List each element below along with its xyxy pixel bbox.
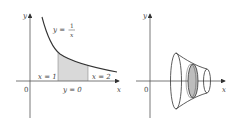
shaded-disk (188, 64, 198, 98)
left-figure (16, 14, 119, 118)
curve-label-numerator: 1 (70, 22, 74, 29)
left-origin-label: 0 (24, 86, 28, 94)
bound-label-x1: x = 1 (38, 73, 57, 81)
left-x-axis-label: x (117, 86, 121, 94)
left-y-axis-label: y (22, 12, 28, 20)
right-x-axis-label: x (222, 86, 226, 94)
curve-label-denominator: x (70, 31, 74, 38)
bottom-bound-label: y = 0 (62, 86, 82, 94)
right-figure (136, 14, 225, 118)
curve-label-lhs: y = (52, 26, 65, 34)
right-y-axis-label: y (142, 12, 148, 20)
shaded-region (58, 53, 88, 81)
diagram-canvas: y x 0 y = 1 x x = 1 x = 2 y = 0 y x 0 (0, 0, 233, 125)
right-origin-label: 0 (144, 86, 148, 94)
bound-label-x2: x = 2 (92, 73, 111, 81)
